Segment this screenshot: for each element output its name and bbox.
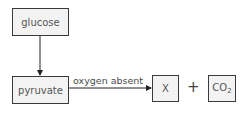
pyruvate-box: pyruvate [12,76,69,104]
oxygen-absent-label: oxygen absent [73,75,143,86]
co2-box: CO2 [208,75,236,102]
x-box: X [152,75,179,102]
plus-sign: + [187,80,200,95]
co2-subscript: 2 [227,87,231,95]
glucose-label: glucose [21,17,59,28]
pyruvate-label: pyruvate [18,85,63,96]
x-label: X [162,83,169,94]
co2-main: CO [212,82,227,93]
glucose-box: glucose [12,8,69,36]
co2-label: CO2 [212,82,231,95]
